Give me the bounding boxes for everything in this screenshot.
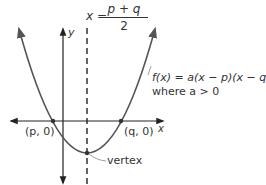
symmetry-eq-denominator: 2: [100, 18, 148, 33]
x-axis-label: x: [158, 124, 164, 134]
symmetry-eq-numerator: p + q: [100, 2, 148, 18]
function-condition-label: where a > 0: [152, 86, 219, 97]
vertex-leader-line: [89, 154, 106, 161]
function-definition-label: f(x) = a(x − p)(x − q),: [152, 72, 266, 83]
p-root-point: [51, 119, 55, 123]
p-root-label: (p, 0): [25, 126, 55, 137]
symmetry-eq-fraction: p + q 2: [100, 2, 148, 33]
q-root-label: (q, 0): [124, 126, 154, 137]
vertex-point: [85, 151, 89, 155]
function-leader-line: [148, 66, 151, 75]
y-axis-label: y: [68, 27, 75, 38]
vertex-label: vertex: [107, 155, 142, 166]
q-root-point: [119, 119, 123, 123]
